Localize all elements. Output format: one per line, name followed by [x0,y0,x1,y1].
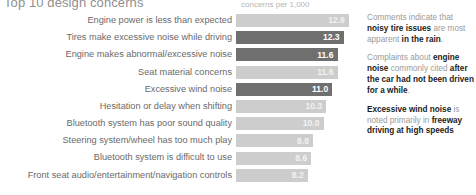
bar: 11.0 [236,83,332,96]
chart-row: Seat material concerns11.6 [0,64,360,81]
category-label: Bluetooth system has poor sound quality [0,119,236,128]
bar-track: 8.8 [236,134,360,147]
category-label: Hesitation or delay when shifting [0,102,236,111]
category-label: Front seat audio/entertainment/navigatio… [0,171,236,180]
bar-value-label: 11.0 [312,85,332,94]
chart-row: Bluetooth system has poor sound quality1… [0,115,360,132]
bar: 8.8 [236,134,313,147]
bar: 8.6 [236,152,311,165]
category-label: Steering system/wheel has too much play [0,136,236,145]
bar-track: 10.3 [236,100,360,113]
bar-track: 12.3 [236,31,360,44]
annotation-text: Excessive wind noise is noted primarily … [367,105,475,137]
chart-row: Front seat audio/entertainment/navigatio… [0,167,360,184]
chart-row: Steering system/wheel has too much play8… [0,132,360,149]
bar-value-label: 11.6 [317,68,337,77]
category-label: Excessive wind noise [0,85,236,94]
page-title: Top 10 design concerns [4,0,144,10]
bar-value-label: 10.3 [305,102,326,111]
bar-track: 10.0 [236,117,360,130]
bar-value-label: 10.0 [303,119,324,128]
bar: 10.0 [236,117,324,130]
bar: 12.3 [236,31,344,44]
bar-track: 12.9 [236,14,360,27]
annotation-text: Complaints about engine noise commonly c… [367,53,475,96]
category-label: Engine power is less than expected [0,16,236,25]
bar-track: 11.0 [236,83,360,96]
bar: 8.2 [236,169,308,182]
bar: 11.6 [236,48,338,61]
chart-row: Hesitation or delay when shifting10.3 [0,98,360,115]
chart-row: Excessive wind noise11.0 [0,81,360,98]
category-label: Engine makes abnormal/excessive noise [0,50,236,59]
category-label: Seat material concerns [0,68,236,77]
bar-track: 8.6 [236,152,360,165]
annotation-text: Comments indicate that noisy tire issues… [367,13,475,45]
bar-chart: Engine power is less than expected12.9Ti… [0,12,360,195]
chart-row: Engine power is less than expected12.9 [0,12,360,29]
bar-track: 8.2 [236,169,360,182]
bar-value-label: 11.6 [317,51,337,60]
chart-row: Engine makes abnormal/excessive noise11.… [0,46,360,63]
bar: 11.6 [236,66,338,79]
bar: 10.3 [236,100,326,113]
chart-row: Bluetooth system is difficult to use8.6 [0,150,360,167]
bar-value-label: 8.8 [297,137,313,146]
bar-value-label: 12.9 [328,16,349,25]
bar-track: 11.6 [236,48,360,61]
chart-row: Tires make excessive noise while driving… [0,29,360,46]
bar-value-label: 12.3 [323,33,344,42]
bar: 12.9 [236,14,349,27]
category-label: Bluetooth system is difficult to use [0,153,236,162]
bar-value-label: 8.6 [295,154,311,163]
bar-track: 11.6 [236,66,360,79]
category-label: Tires make excessive noise while driving [0,33,236,42]
bar-value-label: 8.2 [292,171,308,180]
axis-caption: concerns per 1,000 [241,0,310,9]
annotations-panel: Comments indicate that noisy tire issues… [367,13,475,145]
